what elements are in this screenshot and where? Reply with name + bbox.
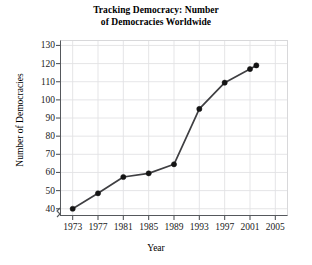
y-axis-break-icon (56, 206, 66, 218)
data-point-marker (197, 106, 202, 111)
y-axis-tick-label: 40 (33, 204, 55, 214)
y-axis-tick-label: 60 (33, 167, 55, 177)
data-point-marker (222, 80, 227, 85)
data-point-marker (70, 206, 75, 211)
y-axis-tick-label: 120 (33, 59, 55, 69)
data-point-marker (146, 171, 151, 176)
y-axis-tick-labels: 405060708090100110120130 (31, 0, 55, 265)
x-axis-tick-labels: 197319771981198519891993199720012005 (60, 222, 312, 236)
data-point-marker (95, 191, 100, 196)
y-axis-tick-label: 50 (33, 186, 55, 196)
data-point-marker (254, 63, 259, 68)
data-series-democracies (60, 40, 288, 216)
plot-area (60, 40, 288, 216)
x-axis-tick-label: 2005 (258, 222, 292, 232)
y-axis-tick-label: 80 (33, 131, 55, 141)
y-axis-title: Number of Democracies (15, 50, 25, 190)
y-axis-tick-label: 100 (33, 95, 55, 105)
series-line (73, 65, 257, 208)
y-axis-tick-label: 70 (33, 149, 55, 159)
y-axis-tick-label: 130 (33, 40, 55, 50)
y-axis-tick-label: 90 (33, 113, 55, 123)
data-point-marker (171, 162, 176, 167)
data-point-marker (121, 174, 126, 179)
y-axis-tick-label: 110 (33, 77, 55, 87)
data-point-marker (247, 66, 252, 71)
chart-figure: Tracking Democracy: Number of Democracie… (0, 0, 312, 265)
